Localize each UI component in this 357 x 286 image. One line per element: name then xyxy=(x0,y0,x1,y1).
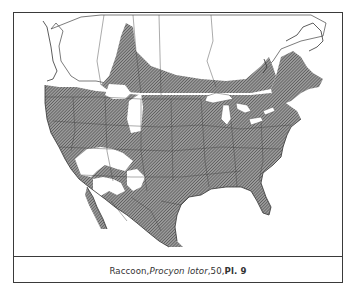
caption-common-name: Raccoon xyxy=(109,266,146,276)
map-figure-frame: Raccoon, Procyon lotor, 50, Pl. 9 xyxy=(13,12,343,283)
caption-page: 50 xyxy=(211,266,222,276)
caption-divider xyxy=(14,256,342,257)
caption-plate: Pl. 9 xyxy=(225,266,247,276)
range-map-svg xyxy=(14,13,341,256)
caption-scientific-name: Procyon lotor xyxy=(149,266,207,276)
map-caption: Raccoon, Procyon lotor, 50, Pl. 9 xyxy=(14,258,342,283)
range-map xyxy=(14,13,341,256)
